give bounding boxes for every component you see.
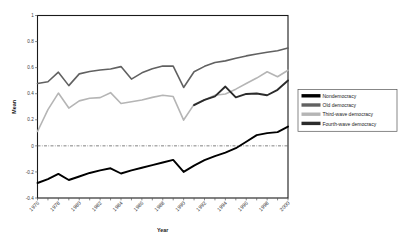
y-tick-label: 0.6 (27, 65, 34, 70)
legend-swatch-2 (302, 103, 321, 106)
x-tick-label: 1982 (90, 200, 102, 212)
x-tick-label: 1988 (153, 200, 165, 212)
x-tick-label: 1976 (28, 200, 40, 212)
plot-area: -0.4-0.200.20.40.60.81197619781980198219… (11, 13, 398, 233)
x-tick-label: 1994 (216, 200, 228, 212)
chart-figure: -0.4-0.200.20.40.60.81197619781980198219… (0, 0, 402, 247)
series-line-nondemocracy (38, 127, 289, 183)
y-tick-label: 0.8 (27, 39, 34, 44)
x-tick-label: 1998 (257, 200, 269, 212)
x-tick-label: 1996 (237, 200, 249, 212)
y-tick-label: 0.4 (27, 91, 34, 96)
y-tick-label: 0.2 (27, 117, 34, 122)
legend-swatch-4 (302, 122, 321, 125)
x-tick-label: 1984 (111, 200, 123, 212)
legend-label-3: Third-wave democracy (323, 111, 374, 117)
y-tick-label: -0.4 (26, 196, 34, 201)
x-tick-label: 1986 (132, 200, 144, 212)
legend-label-1: Nondemocracy (323, 93, 357, 99)
x-tick-label: 1980 (70, 200, 82, 212)
x-tick-label: 1978 (49, 200, 61, 212)
y-tick-label: 0 (31, 144, 34, 149)
plot-frame (38, 16, 289, 199)
legend-label-4: Fourth-wave democracy (323, 121, 377, 127)
series-line-fourth-wave-democracy (194, 80, 288, 105)
x-tick-label: 2000 (278, 200, 290, 212)
legend-swatch-3 (302, 113, 321, 116)
x-tick-label: 1992 (195, 200, 207, 212)
legend-swatch-1 (302, 94, 321, 97)
y-tick-label: 1 (31, 13, 34, 18)
x-axis-title: Year (157, 227, 169, 233)
x-tick-label: 1990 (174, 200, 186, 212)
legend-label-2: Old democracy (323, 102, 357, 108)
y-axis-title: Mean (11, 100, 17, 114)
y-tick-label: -0.2 (26, 170, 34, 175)
line-chart: -0.4-0.200.20.40.60.81197619781980198219… (0, 0, 402, 247)
